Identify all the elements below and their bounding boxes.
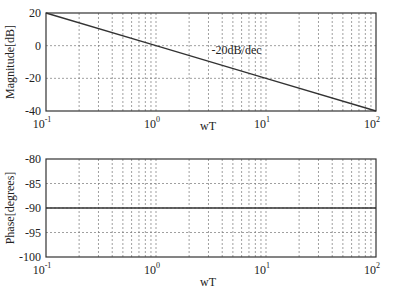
bode-plot-canvas: 200-20-4010-1100101102wTMagnitude[dB]-20… [0, 0, 397, 292]
x-tick-label: 10-1 [33, 115, 52, 131]
y-tick-label: -20 [25, 71, 41, 85]
x-tick-label: 100 [144, 115, 160, 131]
y-tick-label: -100 [19, 250, 41, 264]
x-tick-label: 102 [364, 115, 380, 131]
y-axis-label: Magnitude[dB] [3, 25, 17, 99]
y-tick-label: -85 [25, 177, 41, 191]
x-tick-label: 100 [144, 261, 160, 277]
y-tick-label: -90 [25, 201, 41, 215]
x-tick-label: 102 [364, 261, 380, 277]
x-tick-label: 101 [254, 261, 270, 277]
x-axis-label: wT [200, 275, 217, 289]
y-tick-label: -80 [25, 152, 41, 166]
magnitude-curve [46, 13, 376, 111]
x-tick-label: 101 [254, 115, 270, 131]
y-tick-label: 20 [29, 6, 41, 20]
y-tick-label: 0 [35, 39, 41, 53]
y-tick-label: -95 [25, 226, 41, 240]
slope-annotation: -20dB/dec [212, 43, 262, 57]
y-axis-label: Phase[degrees] [3, 172, 17, 245]
magnitude-plot: 200-20-4010-1100101102wTMagnitude[dB]-20… [3, 6, 380, 133]
x-axis-label: wT [200, 119, 217, 133]
phase-plot: -80-85-90-95-10010-1100101102wTPhase[deg… [3, 152, 380, 289]
x-tick-label: 10-1 [33, 261, 52, 277]
y-tick-label: -40 [25, 104, 41, 118]
bode-plot: 200-20-4010-1100101102wTMagnitude[dB]-20… [0, 0, 397, 292]
